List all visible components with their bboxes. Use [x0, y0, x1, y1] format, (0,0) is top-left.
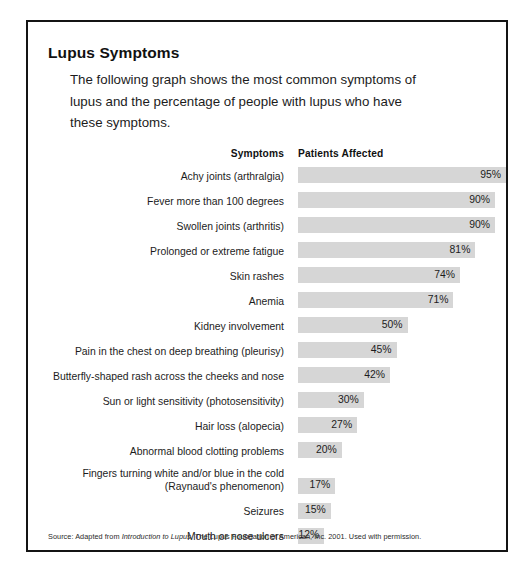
row-label: Fingers turning white and/or blue in the… — [48, 467, 284, 494]
bar: 90% — [298, 192, 495, 208]
bar: 45% — [298, 342, 397, 358]
column-header-symptoms: Symptoms — [48, 148, 284, 159]
bar-value-label: 74% — [434, 270, 460, 280]
bar: 74% — [298, 267, 460, 283]
bar: 42% — [298, 367, 390, 383]
chart-row: Butterfly-shaped rash across the cheeks … — [48, 367, 492, 383]
intro-paragraph-line-2: lupus and the percentage of people with … — [70, 91, 474, 113]
chart-row: Prolonged or extreme fatigue81% — [48, 242, 492, 258]
frame-inner: Lupus Symptoms The following graph shows… — [28, 22, 506, 550]
bar-track: 42% — [284, 367, 492, 383]
bar-value-label: 50% — [382, 320, 408, 330]
bar-value-label: 20% — [316, 445, 342, 455]
row-label: Seizures — [48, 505, 284, 518]
chart-row: Kidney involvement50% — [48, 317, 492, 333]
bar-track: 50% — [284, 317, 492, 333]
row-label: Sun or light sensitivity (photosensitivi… — [48, 395, 284, 408]
chart-row: Anemia71% — [48, 292, 492, 308]
bar: 95% — [298, 167, 506, 183]
page-root: Lupus Symptoms The following graph shows… — [0, 0, 526, 567]
row-label: Hair loss (alopecia) — [48, 420, 284, 433]
bar-track: 81% — [284, 242, 492, 258]
row-label: Anemia — [48, 295, 284, 308]
chart-row: Fingers turning white and/or blue in the… — [48, 467, 492, 494]
row-label: Pain in the chest on deep breathing (ple… — [48, 345, 284, 358]
bar-value-label: 15% — [305, 505, 331, 515]
chart-row: Abnormal blood clotting problems20% — [48, 442, 492, 458]
row-label: Prolonged or extreme fatigue — [48, 245, 284, 258]
bar-track: 17% — [284, 478, 492, 494]
bar-track: 20% — [284, 442, 492, 458]
chart-row: Hair loss (alopecia)27% — [48, 417, 492, 433]
bar-value-label: 90% — [469, 195, 495, 205]
page-title: Lupus Symptoms — [48, 44, 492, 62]
bar-value-label: 71% — [428, 295, 454, 305]
chart-row: Pain in the chest on deep breathing (ple… — [48, 342, 492, 358]
bar-value-label: 30% — [338, 395, 364, 405]
bar-value-label: 81% — [450, 245, 476, 255]
symptoms-bar-chart: Symptoms Patients Affected Achy joints (… — [48, 148, 492, 544]
bar-track: 15% — [284, 503, 492, 519]
source-suffix: , The Lupus Foundation of American, Inc.… — [191, 532, 421, 541]
bar: 30% — [298, 392, 364, 408]
chart-row: Sun or light sensitivity (photosensitivi… — [48, 392, 492, 408]
intro-paragraph-line-1: The following graph shows the most commo… — [70, 69, 474, 91]
row-label: Butterfly-shaped rash across the cheeks … — [48, 370, 284, 383]
chart-row: Achy joints (arthralgia)95% — [48, 167, 492, 183]
source-prefix: Source: Adapted from — [48, 532, 122, 541]
bar-track: 90% — [284, 192, 495, 208]
intro-paragraph-line-3: these symptoms. — [70, 112, 474, 134]
source-title-italic: Introduction to Lupus — [122, 532, 191, 541]
bar-track: 90% — [284, 217, 495, 233]
chart-rows: Achy joints (arthralgia)95%Fever more th… — [48, 167, 492, 544]
bar: 81% — [298, 242, 475, 258]
bar: 71% — [298, 292, 453, 308]
content-frame: Lupus Symptoms The following graph shows… — [26, 20, 508, 552]
chart-row: Seizures15% — [48, 503, 492, 519]
bar-value-label: 17% — [309, 480, 335, 490]
bar: 15% — [298, 503, 331, 519]
chart-row: Skin rashes74% — [48, 267, 492, 283]
source-note: Source: Adapted from Introduction to Lup… — [48, 532, 421, 541]
row-label: Achy joints (arthralgia) — [48, 170, 284, 183]
bar-value-label: 42% — [364, 370, 390, 380]
bar: 27% — [298, 417, 357, 433]
bar-value-label: 95% — [480, 170, 506, 180]
bar-track: 27% — [284, 417, 492, 433]
bar-track: 74% — [284, 267, 492, 283]
bar-track: 71% — [284, 292, 492, 308]
row-label: Skin rashes — [48, 270, 284, 283]
bar-track: 45% — [284, 342, 492, 358]
chart-row: Fever more than 100 degrees90% — [48, 192, 492, 208]
row-label: Swollen joints (arthritis) — [48, 220, 284, 233]
bar: 17% — [298, 478, 335, 494]
row-label: Abnormal blood clotting problems — [48, 445, 284, 458]
column-header-patients-affected: Patients Affected — [284, 148, 383, 159]
chart-column-headers: Symptoms Patients Affected — [48, 148, 492, 159]
chart-row: Swollen joints (arthritis)90% — [48, 217, 492, 233]
bar-track: 30% — [284, 392, 492, 408]
bar-value-label: 45% — [371, 345, 397, 355]
bar-value-label: 90% — [469, 220, 495, 230]
bar: 50% — [298, 317, 408, 333]
row-label: Kidney involvement — [48, 320, 284, 333]
bar-track: 95% — [284, 167, 506, 183]
bar: 20% — [298, 442, 342, 458]
bar: 90% — [298, 217, 495, 233]
row-label: Fever more than 100 degrees — [48, 195, 284, 208]
bar-value-label: 27% — [331, 420, 357, 430]
